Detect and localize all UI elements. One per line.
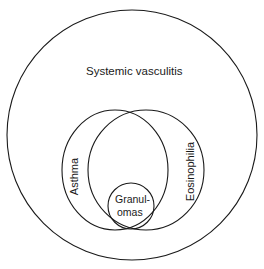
granulomas-label-line2: omas: [117, 207, 143, 218]
venn-diagram: Systemic vasculitis Asthma Eosinophilia …: [0, 0, 264, 269]
asthma-label: Asthma: [69, 152, 80, 202]
granulomas-label-line1: Granul-: [115, 194, 150, 205]
eosinophilia-label: Eosinophilia: [185, 137, 196, 207]
systemic-vasculitis-circle: [7, 10, 257, 260]
venn-shapes: [0, 0, 264, 269]
systemic-vasculitis-label: Systemic vasculitis: [86, 66, 183, 78]
